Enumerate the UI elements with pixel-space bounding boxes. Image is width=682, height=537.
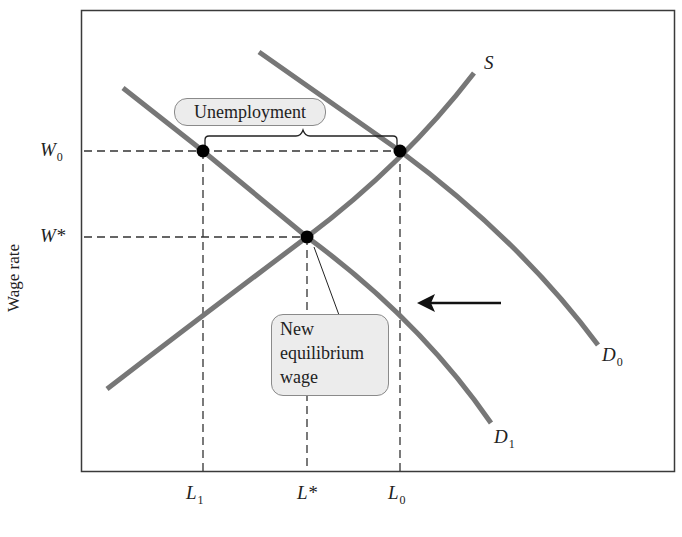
curve-label-d0-sub: 0	[617, 355, 623, 369]
curve-label-d0-main: D	[602, 344, 616, 365]
demand-shift-arrow	[417, 294, 501, 312]
y-axis-label: Wage rate	[4, 244, 24, 312]
x-tick-l0-main: L	[388, 482, 399, 503]
curve-label-d1-sub: 1	[509, 437, 515, 451]
unemployment-brace	[205, 130, 397, 146]
curve-label-d1-main: D	[494, 426, 508, 447]
labor-market-diagram	[0, 0, 682, 537]
curve-label-d0: D0	[602, 344, 623, 366]
curve-label-d1: D1	[494, 426, 515, 448]
callout-line-1: New	[280, 317, 388, 341]
point-original-equilibrium	[394, 145, 407, 158]
unemployment-callout: Unemployment	[174, 98, 326, 126]
y-tick-w0-sub: 0	[57, 150, 63, 164]
plot-frame	[82, 11, 675, 472]
y-tick-w0: W0	[40, 139, 63, 161]
x-tick-l0: L0	[388, 482, 406, 504]
x-tick-l1-main: L	[186, 482, 197, 503]
y-tick-wstar: W*	[40, 225, 65, 247]
x-tick-l1: L1	[186, 482, 204, 504]
point-l1-w0	[197, 145, 210, 158]
curve-label-s-main: S	[484, 52, 494, 73]
new-equilibrium-wage-callout: New equilibrium wage	[271, 314, 389, 396]
callout-line-2: equilibrium	[280, 341, 388, 365]
callout-line-3: wage	[280, 365, 388, 389]
x-tick-l1-sub: 1	[198, 493, 204, 507]
curve-label-s: S	[484, 52, 494, 74]
y-tick-wstar-main: W*	[40, 225, 65, 246]
point-new-equilibrium	[301, 231, 314, 244]
x-tick-lstar: L*	[297, 482, 317, 504]
x-tick-l0-sub: 0	[400, 493, 406, 507]
x-tick-lstar-main: L*	[297, 482, 317, 503]
y-tick-w0-main: W	[40, 139, 56, 160]
